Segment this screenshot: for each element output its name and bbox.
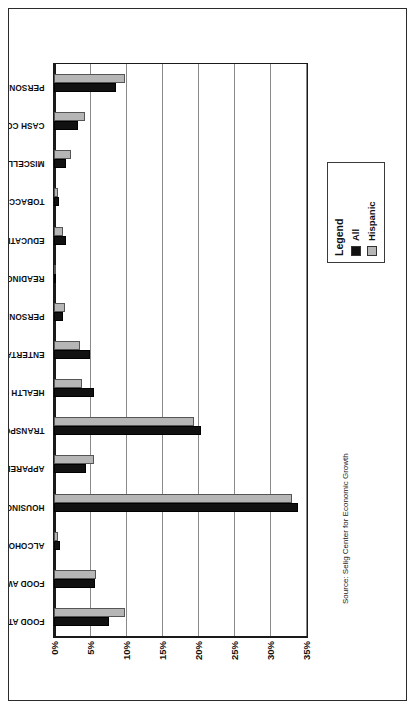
bar-groups: FOOD AT HOMEFOOD AWAY FROM HOMEALCOHOLIC… (54, 64, 306, 636)
bar-group: MISCELLANEOUS (54, 140, 306, 178)
bar-hispanic (54, 188, 58, 197)
y-tick-label: 25% (229, 641, 240, 660)
bar-hispanic (54, 532, 58, 541)
bar-group: ALCOHOLIC BEVERAGES (54, 522, 306, 560)
bar-group: PERSONAL INSURANCE & PENSIONS (54, 64, 306, 102)
bar-hispanic (54, 608, 125, 617)
legend-title: Legend (333, 219, 345, 256)
category-label: MISCELLANEOUS (8, 159, 45, 168)
bar-all (54, 350, 90, 359)
bar-group: ENTERTAINMENT (54, 331, 306, 369)
bar-hispanic (54, 341, 80, 350)
source-note: Source: Selig Center for Economic Growth (341, 453, 350, 604)
bar-group: EDUCATION (54, 217, 306, 255)
legend-entry-all: All (350, 229, 361, 256)
bar-all (54, 464, 86, 473)
gray-swatch-icon (367, 246, 377, 256)
bar-all (54, 617, 109, 626)
bar-hispanic (54, 379, 82, 388)
bar-all (54, 274, 56, 283)
category-label: PERSONAL CARE PRODUCTS & SERVICES (8, 312, 45, 321)
bar-group: FOOD AT HOME (54, 598, 306, 636)
category-label: APPAREL & SERVICES (8, 464, 45, 473)
bar-all (54, 121, 78, 130)
bar-group: FOOD AWAY FROM HOME (54, 560, 306, 598)
category-label: FOOD AT HOME (8, 617, 45, 626)
legend-label-all: All (350, 229, 361, 241)
category-label: EDUCATION (8, 236, 45, 245)
bar-all (54, 83, 116, 92)
black-swatch-icon (351, 246, 361, 256)
bar-all (54, 541, 60, 550)
bar-all (54, 236, 66, 245)
bar-all (54, 312, 63, 321)
bar-hispanic (54, 303, 65, 312)
bar-all (54, 426, 201, 435)
y-tick-label: 0% (49, 641, 60, 655)
bar-group: CASH CONTRIBUTIONS (54, 102, 306, 140)
plot-area: 0%5%10%15%20%25%30%35% FOOD AT HOMEFOOD … (53, 63, 308, 638)
bar-hispanic (54, 150, 71, 159)
bar-all (54, 197, 59, 206)
bar-group: PERSONAL CARE PRODUCTS & SERVICES (54, 293, 306, 331)
y-tick-label: 30% (265, 641, 276, 660)
bar-hispanic (54, 227, 63, 236)
bar-all (54, 579, 95, 588)
category-label: CASH CONTRIBUTIONS (8, 121, 45, 130)
category-label: READING (8, 274, 45, 283)
category-label: HEALTH CARE (8, 388, 45, 397)
y-tick-label: 5% (85, 641, 96, 655)
y-tick-label: 20% (193, 641, 204, 660)
category-label: HOUSING (8, 503, 45, 512)
bar-all (54, 159, 66, 168)
bar-hispanic (54, 570, 96, 579)
bar-group: TRANSPORTATION (54, 407, 306, 445)
bar-hispanic (54, 74, 125, 83)
category-label: TOBACCO PRODUCTS & SMOKING SUPPLIES (8, 197, 45, 206)
category-label: PERSONAL INSURANCE & PENSIONS (8, 83, 45, 92)
bar-group: HEALTH CARE (54, 369, 306, 407)
bar-group: READING (54, 255, 306, 293)
bar-all (54, 503, 298, 512)
category-label: TRANSPORTATION (8, 426, 45, 435)
y-tick-label: 15% (157, 641, 168, 660)
bar-group: TOBACCO PRODUCTS & SMOKING SUPPLIES (54, 178, 306, 216)
figure-frame: 0%5%10%15%20%25%30%35% FOOD AT HOMEFOOD … (8, 8, 407, 701)
bar-hispanic (54, 417, 194, 426)
category-label: ALCOHOLIC BEVERAGES (8, 541, 45, 550)
bar-hispanic (54, 112, 85, 121)
rotated-chart-stage: 0%5%10%15%20%25%30%35% FOOD AT HOMEFOOD … (9, 9, 406, 700)
category-label: ENTERTAINMENT (8, 350, 45, 359)
bar-all (54, 388, 94, 397)
legend-box: Legend All Hispanic (327, 162, 385, 263)
y-tick-label: 35% (301, 641, 312, 660)
bar-group: HOUSING (54, 483, 306, 521)
bar-hispanic (54, 455, 94, 464)
y-tick-label: 10% (121, 641, 132, 660)
bar-group: APPAREL & SERVICES (54, 445, 306, 483)
bar-hispanic (54, 494, 292, 503)
legend-label-hispanic: Hispanic (366, 201, 377, 241)
category-label: FOOD AWAY FROM HOME (8, 579, 45, 588)
gridline (306, 64, 307, 636)
bar-hispanic (54, 265, 56, 274)
legend-entry-hispanic: Hispanic (366, 201, 377, 256)
